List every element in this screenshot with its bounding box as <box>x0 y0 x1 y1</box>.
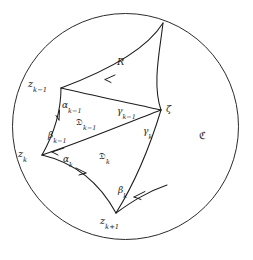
unit-circle-boundary <box>13 14 239 240</box>
vertex-label-zeta: ζ <box>166 104 171 114</box>
figure-canvas: zk−1 ζ zk zk+1 αk−1 γk−1 γk βk−1 αk βk R… <box>0 0 253 260</box>
arrowhead-R-upper <box>105 75 115 83</box>
edge-beta-k <box>42 155 116 213</box>
vertex-label-z-k-plus-1: zk+1 <box>100 216 119 226</box>
edge-label-gamma-k: γk <box>143 127 152 136</box>
edge-label-alpha-k: αk <box>63 155 73 164</box>
vertex-label-z-k-minus-1: zk−1 <box>28 79 47 89</box>
region-label-D-k: 𝔇k <box>99 152 110 161</box>
figure-svg <box>0 0 253 260</box>
arrowhead-beta-k <box>76 168 86 175</box>
vertex-label-z-k: zk <box>18 149 27 159</box>
region-label-C-exterior: ℭ <box>199 131 206 141</box>
edge-label-beta-k-minus-1: βk−1 <box>48 131 67 140</box>
region-label-D-k-minus-1: 𝔇k−1 <box>76 118 96 127</box>
arc-R-upper <box>61 23 163 88</box>
region-label-R: R <box>117 57 124 67</box>
edge-label-beta-k: βk <box>118 186 127 195</box>
edge-label-alpha-k-minus-1: αk−1 <box>62 101 82 110</box>
arc-R-right <box>157 23 163 110</box>
edge-label-gamma-k-minus-1: γk−1 <box>117 107 136 116</box>
